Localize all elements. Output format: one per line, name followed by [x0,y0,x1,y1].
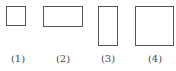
shape-1-square [6,6,26,26]
shape-1-label: (1) [11,53,25,64]
shape-2-rectangle [43,6,83,27]
shape-4-label: (4) [148,53,162,64]
shape-3-label: (3) [101,53,115,64]
shape-3-tall-rectangle [98,6,118,46]
shape-4-large-square [135,6,174,46]
shape-2-label: (2) [56,53,70,64]
